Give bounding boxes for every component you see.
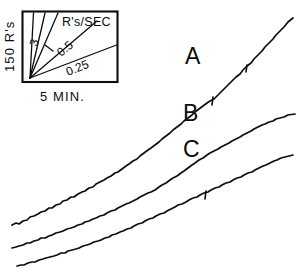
curve-label-b: B — [183, 100, 198, 126]
event-mark-c-1 — [205, 191, 206, 199]
cumulative-record-figure: R's/SEC 3 0.5 0.25 150 R's 5 MIN. A B — [0, 0, 297, 279]
inset-x-axis-label: 5 MIN. — [40, 89, 85, 104]
inset-y-axis-label: 150 R's — [2, 21, 17, 72]
event-mark-a-1 — [212, 97, 213, 105]
inset-title: R's/SEC — [62, 15, 111, 29]
event-mark-a-2 — [246, 65, 247, 72]
curve-label-c: C — [183, 136, 200, 162]
figure-canvas: R's/SEC 3 0.5 0.25 150 R's 5 MIN. A B — [0, 0, 297, 279]
curve-label-a: A — [185, 43, 201, 69]
